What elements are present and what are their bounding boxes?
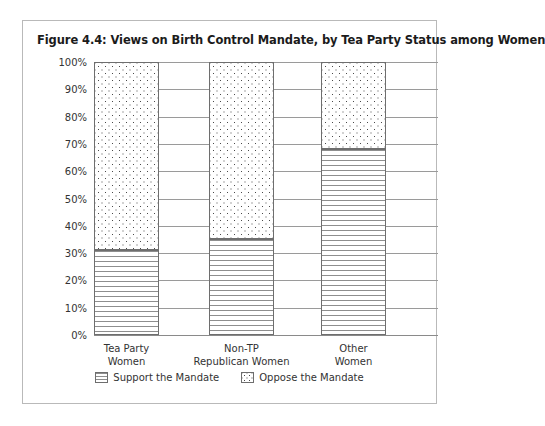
bar-segment-support[interactable] xyxy=(209,239,274,335)
y-tick-label-0pct: 0% xyxy=(71,330,87,341)
gridline-0pct xyxy=(94,335,438,336)
stacked-bar[interactable] xyxy=(94,62,159,335)
y-tick-label-20pct: 20% xyxy=(65,275,87,286)
y-tick-label-80pct: 80% xyxy=(65,111,87,122)
plot-area: 0%10%20%30%40%50%60%70%80%90%100% Tea Pa… xyxy=(94,62,438,335)
support-swatch-icon xyxy=(95,372,108,383)
x-axis-label-line2: Women xyxy=(279,355,429,368)
figure-title: Figure 4.4: Views on Birth Control Manda… xyxy=(37,33,545,47)
bar-segment-support[interactable] xyxy=(94,250,159,335)
chart-legend: Support the MandateOppose the Mandate xyxy=(23,372,436,383)
y-tick-label-30pct: 30% xyxy=(65,248,87,259)
legend-item[interactable]: Oppose the Mandate xyxy=(241,372,363,383)
legend-item-label: Support the Mandate xyxy=(113,372,219,383)
y-tick-label-50pct: 50% xyxy=(65,193,87,204)
legend-item[interactable]: Support the Mandate xyxy=(95,372,219,383)
y-tick-label-90pct: 90% xyxy=(65,84,87,95)
x-axis-label: OtherWomen xyxy=(279,342,429,368)
y-tick-label-40pct: 40% xyxy=(65,220,87,231)
stacked-bar[interactable] xyxy=(321,62,386,335)
bar-segment-oppose[interactable] xyxy=(209,62,274,239)
y-tick-label-100pct: 100% xyxy=(58,57,87,68)
bar-segment-support[interactable] xyxy=(321,149,386,335)
y-tick-label-70pct: 70% xyxy=(65,138,87,149)
legend-item-label: Oppose the Mandate xyxy=(259,372,363,383)
stacked-bar[interactable] xyxy=(209,62,274,335)
y-tick-label-60pct: 60% xyxy=(65,166,87,177)
bar-segment-oppose[interactable] xyxy=(321,62,386,149)
bar-segment-oppose[interactable] xyxy=(94,62,159,250)
x-axis-label-line1: Other xyxy=(279,342,429,355)
y-tick-label-10pct: 10% xyxy=(65,302,87,313)
oppose-swatch-icon xyxy=(241,372,254,383)
figure-frame: Figure 4.4: Views on Birth Control Manda… xyxy=(22,20,437,404)
